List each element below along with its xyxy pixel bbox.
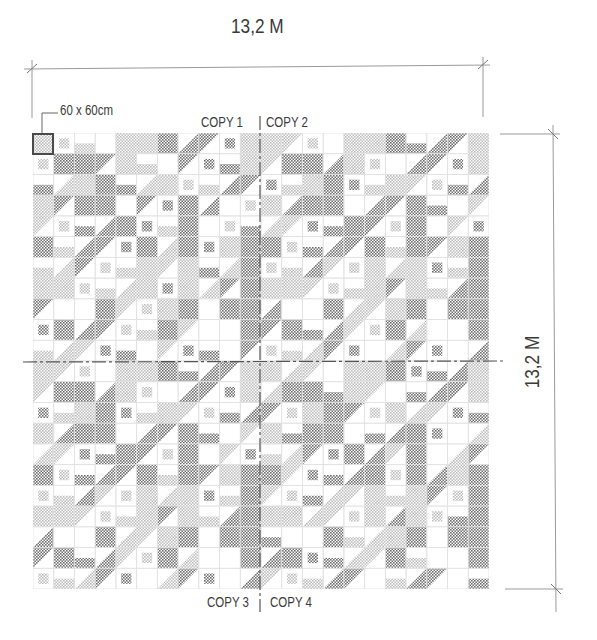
center-lines [0, 0, 597, 640]
width-dimension-label: 13,2 M [231, 14, 284, 38]
copy-2-label: COPY 2 [266, 114, 308, 130]
horizontal-center-line [23, 361, 503, 362]
highlighted-tile [33, 134, 53, 154]
copy-3-label: COPY 3 [207, 594, 249, 610]
copy-4-label: COPY 4 [270, 594, 312, 610]
copy-1-label: COPY 1 [201, 114, 243, 130]
height-dimension-label: 13,2 M [520, 336, 544, 389]
tile-size-note: 60 x 60cm [60, 102, 113, 118]
